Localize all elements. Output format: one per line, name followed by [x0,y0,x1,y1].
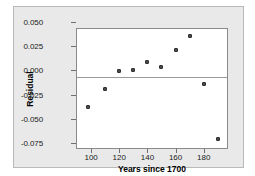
data-point [86,105,90,109]
zero-reference-line [77,77,227,78]
y-tick-label: -0.075 [3,139,43,148]
data-point [131,68,135,72]
data-point [202,82,206,86]
y-tick-label: 0.000 [3,66,43,75]
x-tick-label: 180 [189,153,219,162]
y-tick-label: 0.050 [3,18,43,27]
x-tick-label: 160 [161,153,191,162]
x-axis-title: Years since 1700 [76,164,228,174]
y-axis-title: Residual [25,71,35,106]
y-tick-label: -0.025 [3,90,43,99]
x-tick-label: 120 [104,153,134,162]
plot-area [76,28,228,149]
x-tick-label: 140 [132,153,162,162]
y-tick-label: -0.050 [3,114,43,123]
data-point [103,87,107,91]
data-point [159,65,163,69]
chart-screenshot: Residual 0.0500.0250.000-0.025-0.050-0.0… [0,0,255,176]
data-point [188,34,192,38]
chart-panel: Residual 0.0500.0250.000-0.025-0.050-0.0… [13,6,244,168]
data-point [117,69,121,73]
y-tick-mark [71,22,76,23]
x-tick-label: 100 [76,153,106,162]
y-tick-label: 0.025 [3,42,43,51]
plot-inner [77,29,227,148]
data-point [145,60,149,64]
data-point [174,48,178,52]
data-point [216,137,220,141]
